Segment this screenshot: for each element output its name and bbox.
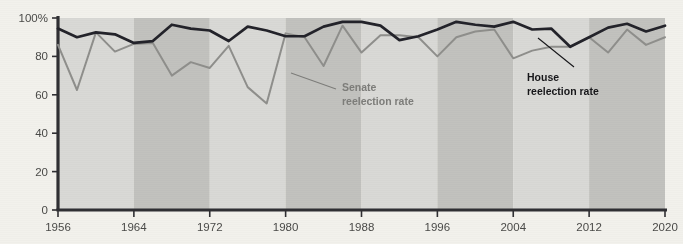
y-tick-label: 0 bbox=[42, 204, 48, 216]
x-axis-ticks: 195619641972198019881996200420122020 bbox=[45, 210, 678, 233]
y-tick-label: 80 bbox=[35, 50, 48, 62]
background-band bbox=[58, 18, 134, 210]
x-tick-label: 1980 bbox=[273, 221, 299, 233]
x-tick-label: 1964 bbox=[121, 221, 147, 233]
y-tick-label: 60 bbox=[35, 89, 48, 101]
x-tick-label: 2012 bbox=[576, 221, 602, 233]
x-tick-label: 1996 bbox=[425, 221, 451, 233]
senate-annotation-label-line2: reelection rate bbox=[342, 95, 414, 107]
y-tick-label: 100% bbox=[19, 12, 48, 24]
x-tick-label: 1956 bbox=[45, 221, 71, 233]
x-tick-label: 2020 bbox=[652, 221, 678, 233]
background-band bbox=[286, 18, 362, 210]
house-annotation-label-line2: reelection rate bbox=[527, 85, 599, 97]
y-axis-ticks: 020406080100% bbox=[19, 12, 58, 216]
background-band bbox=[210, 18, 286, 210]
background-band bbox=[134, 18, 210, 210]
x-tick-label: 2004 bbox=[500, 221, 526, 233]
background-bands bbox=[58, 18, 665, 210]
x-tick-label: 1988 bbox=[349, 221, 375, 233]
y-tick-label: 20 bbox=[35, 166, 48, 178]
x-tick-label: 1972 bbox=[197, 221, 223, 233]
chart-canvas: 020406080100%195619641972198019881996200… bbox=[0, 0, 683, 244]
background-band bbox=[437, 18, 513, 210]
y-tick-label: 40 bbox=[35, 127, 48, 139]
senate-annotation-label-line1: Senate bbox=[342, 81, 377, 93]
house-annotation-label-line1: House bbox=[527, 71, 559, 83]
background-band bbox=[362, 18, 438, 210]
reelection-rate-chart: 020406080100%195619641972198019881996200… bbox=[0, 0, 683, 244]
